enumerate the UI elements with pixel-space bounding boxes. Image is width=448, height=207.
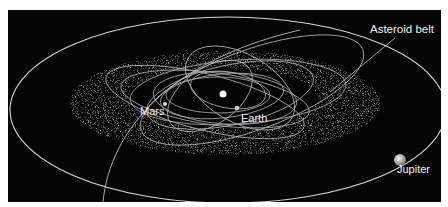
solar-system-diagram: Asteroid belt Mars Earth Jupiter [8,10,441,202]
earth-label: Earth [241,113,267,124]
mars-label: Mars [140,106,164,117]
orbit-illustration [8,10,441,202]
sun-icon [220,91,227,98]
earth-icon [235,106,240,111]
asteroid-belt [8,10,441,202]
jupiter-label: Jupiter [397,164,430,175]
asteroid-belt-label: Asteroid belt [370,24,434,36]
